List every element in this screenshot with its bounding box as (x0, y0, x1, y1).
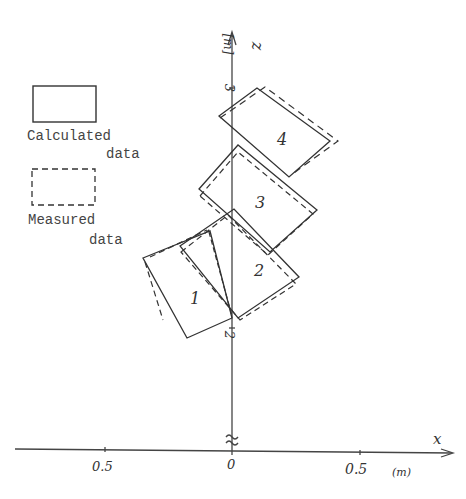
box-1 (143, 230, 232, 338)
box-label-3: 3 (255, 193, 265, 212)
x-axis-label: x (433, 430, 442, 448)
legend-calculated-line2: data (106, 146, 140, 162)
legend-measured-line1: Measured (28, 212, 95, 228)
x-tick-label-neg: 0.5 (92, 459, 113, 474)
z-axis-unit: [m] (221, 34, 235, 55)
legend-calculated-swatch (33, 86, 96, 122)
z-axis (226, 32, 238, 455)
x-axis (15, 447, 453, 457)
x-axis-unit: (m) (392, 466, 411, 479)
z-tick-label-3: 3 (222, 84, 237, 92)
x-tick-label-zero: 0 (227, 457, 235, 472)
z-tick-label-2: 2 (222, 330, 237, 339)
z-axis-label: z (248, 41, 267, 51)
legend-measured-swatch (32, 169, 95, 205)
box-label-2: 2 (253, 261, 264, 280)
figure-canvas: 1 2 3 4 3 2 [m] z 0.5 0 0.5 (m) x (0, 0, 466, 499)
box-label-4: 4 (276, 130, 287, 149)
legend-measured-line2: data (89, 232, 123, 248)
x-tick-label-pos: 0.5 (345, 461, 367, 477)
box-label-1: 1 (190, 289, 200, 308)
legend-calculated-line1: Calculated (27, 128, 111, 144)
